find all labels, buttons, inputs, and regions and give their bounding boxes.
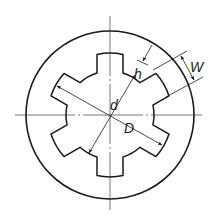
label-d: d xyxy=(110,97,119,113)
tooth-height-leader xyxy=(143,45,152,61)
tooth-height-tick xyxy=(137,60,148,65)
label-D: D xyxy=(124,120,134,136)
label-h: h xyxy=(134,66,142,82)
minor-diameter-dimension-line xyxy=(89,75,135,153)
width-extension-line-lower xyxy=(166,77,203,97)
major-diameter-dimension-line xyxy=(57,86,162,145)
width-extension-line-upper xyxy=(153,51,187,70)
label-w: W xyxy=(190,59,205,75)
spline-shaft-diagram: h W d D xyxy=(0,0,212,222)
